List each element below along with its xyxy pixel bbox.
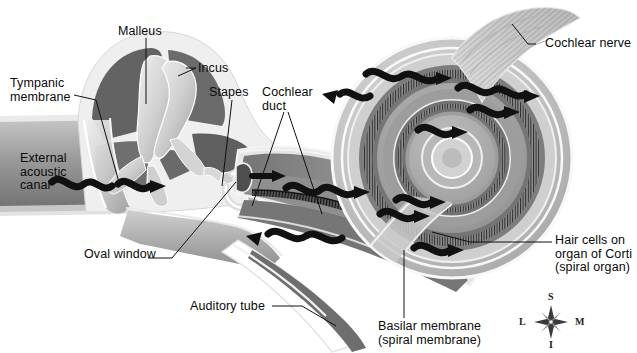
- label-basilar-membrane: Basilar membrane (spiral membrane): [378, 320, 481, 347]
- label-malleus: Malleus: [118, 25, 162, 39]
- compass-label-medial: M: [575, 316, 584, 327]
- label-cochlear-duct: Cochlear duct: [262, 86, 313, 113]
- label-tympanic-membrane: Tympanic membrane: [10, 77, 71, 104]
- label-stapes: Stapes: [209, 86, 249, 100]
- ear-anatomy-figure: Malleus Incus Stapes Cochlear duct Tympa…: [0, 0, 637, 353]
- orientation-compass: [529, 300, 573, 344]
- label-oval-window: Oval window: [84, 248, 156, 262]
- compass-label-lateral: L: [519, 316, 526, 327]
- label-cochlear-nerve: Cochlear nerve: [545, 37, 631, 51]
- label-auditory-tube: Auditory tube: [190, 300, 265, 314]
- label-hair-cells-organ-of-corti: Hair cells on organ of Corti (spiral org…: [555, 234, 632, 275]
- compass-label-inferior: I: [549, 339, 553, 350]
- compass-label-superior: S: [548, 291, 554, 302]
- label-incus: Incus: [198, 62, 228, 76]
- label-external-acoustic-canal: External acoustic canal: [20, 152, 67, 193]
